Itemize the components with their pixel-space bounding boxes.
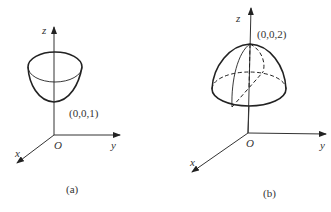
origin-label-a: O: [54, 139, 62, 151]
y-axis-label-a: y: [110, 139, 116, 151]
point-label-a: (0,0,1): [69, 107, 99, 120]
paraboloid-bowl: [28, 52, 82, 102]
point-label-b: (0,0,2): [257, 28, 287, 41]
y-axis-label-b: y: [319, 139, 325, 151]
x-axis-b: [192, 133, 248, 172]
x-axis-a: [17, 135, 54, 163]
figure-b: z y x O (0,0,2) (b): [189, 8, 326, 200]
x-axis-label-b: x: [189, 156, 195, 168]
z-axis-label-b: z: [235, 12, 241, 24]
caption-a: (a): [66, 183, 79, 196]
diagram-canvas: z y x O (0,0,1) (a): [0, 0, 331, 212]
figure-a: z y x O (0,0,1) (a): [14, 24, 120, 196]
x-axis-label-a: x: [14, 147, 20, 159]
y-axis-b: [248, 133, 326, 134]
z-axis-label-a: z: [41, 24, 47, 36]
origin-label-b: O: [246, 137, 254, 149]
caption-b: (b): [263, 187, 276, 200]
